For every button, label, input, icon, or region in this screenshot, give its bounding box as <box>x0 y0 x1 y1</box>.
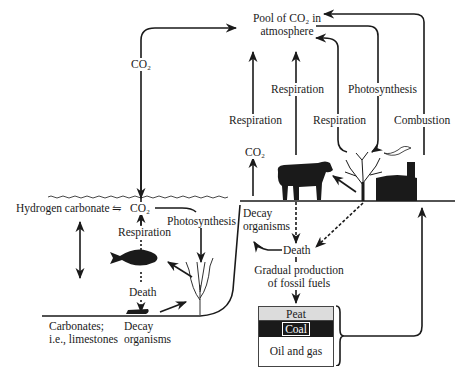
fossil-brace <box>336 306 344 366</box>
co2-land-label: CO₂ <box>244 146 266 159</box>
atmosphere-pool-label: Pool of CO₂ in atmosphere <box>244 12 330 38</box>
fuel-oil-gas: Oil and gas <box>259 337 333 366</box>
fuel-peat: Peat <box>259 307 333 321</box>
fossil-fuels-box: Peat Coal Oil and gas <box>258 306 334 367</box>
seaweed-icon <box>186 258 213 315</box>
photosynthesis-land-label: Photosynthesis <box>347 83 418 96</box>
water-surface <box>48 196 228 198</box>
co2-left-label: CO₂ <box>130 58 152 71</box>
decay-organisms-water-label: Decay organisms <box>123 320 172 346</box>
respiration-water-label: Respiration <box>117 226 172 239</box>
respiration-animal-label: Respiration <box>270 83 325 96</box>
arrow-decay-to-seaweed <box>160 302 186 312</box>
cow-icon <box>278 162 333 201</box>
death-land-label: Death <box>282 244 311 257</box>
hydrogen-carbonate-label: Hydrogen carbonate <box>15 202 111 215</box>
decay-organisms-icon <box>126 309 149 314</box>
co2-water-label: CO₂ <box>129 202 151 215</box>
fuel-coal: Coal <box>259 321 333 337</box>
arrow-plant-death <box>316 203 363 247</box>
death-water-label: Death <box>128 286 157 299</box>
arrow-water-to-atmosphere <box>141 28 236 238</box>
arrow-death-to-decay <box>254 242 282 250</box>
combustion-label: Combustion <box>393 114 451 127</box>
photosynthesis-water-label: Photosynthesis <box>166 215 237 228</box>
arrow-plant-to-animal <box>333 176 356 192</box>
fish-icon <box>110 249 158 265</box>
equilibrium-symbol: ⇋ <box>111 202 123 215</box>
factory-icon <box>376 146 417 201</box>
decay-organisms-land-label: Decay organisms <box>242 207 291 233</box>
carbonates-label: Carbonates; i.e., limestones <box>48 320 119 346</box>
arrow-fossil-to-combustion <box>344 208 422 336</box>
arrow-co2-to-photosynthesis <box>155 208 196 212</box>
respiration-plant-label: Respiration <box>312 114 367 127</box>
respiration-land-left-label: Respiration <box>228 114 283 127</box>
fossil-production-label: Gradual production of fossil fuels <box>250 264 348 290</box>
